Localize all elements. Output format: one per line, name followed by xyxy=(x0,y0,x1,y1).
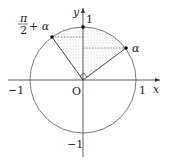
x-neg-one-label: −1 xyxy=(8,84,24,97)
x-axis-arrow-icon xyxy=(155,78,160,82)
y-axis-arrow-icon xyxy=(81,8,85,13)
point-pi-half-alpha xyxy=(50,35,54,39)
origin-label: O xyxy=(72,85,81,98)
two-label: 2 xyxy=(20,24,27,37)
plus-alpha-label: + α xyxy=(29,20,50,33)
point-top xyxy=(81,25,85,29)
x-pos-one-label: 1 xyxy=(139,84,146,97)
diagram-canvas: x y O 1 −1 1 −1 α π 2 + α xyxy=(0,0,171,165)
point-alpha xyxy=(124,46,128,50)
y-pos-one-label: 1 xyxy=(86,13,93,26)
shaded-sector xyxy=(52,27,126,80)
x-axis-label: x xyxy=(153,83,160,96)
alpha-label: α xyxy=(132,42,140,55)
y-axis-label: y xyxy=(72,6,80,19)
unit-circle-diagram: x y O 1 −1 1 −1 α π 2 + α xyxy=(0,0,171,165)
y-neg-one-label: −1 xyxy=(67,138,83,151)
